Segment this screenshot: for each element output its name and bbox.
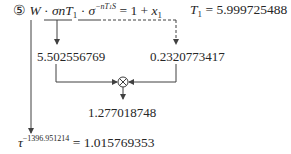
flow-arrows	[0, 0, 291, 154]
multiply-icon	[118, 77, 128, 87]
